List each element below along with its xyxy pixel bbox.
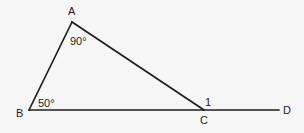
angle-label-b: 50° [38,98,55,109]
triangle-diagram: A B C D 90° 50° 1 [0,0,304,133]
vertex-label-a: A [68,6,75,17]
angle-label-1: 1 [205,97,211,108]
vertex-label-c: C [200,115,208,126]
diagram-canvas [0,0,304,133]
vertex-label-d: D [283,105,291,116]
vertex-label-b: B [16,108,23,119]
angle-label-a: 90° [70,36,87,47]
segment-ac [72,22,204,110]
